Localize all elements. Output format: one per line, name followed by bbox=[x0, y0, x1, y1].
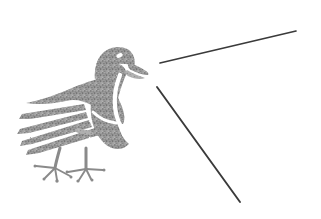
claw-dot bbox=[76, 179, 79, 182]
claw-dot bbox=[34, 165, 37, 168]
claw-dot bbox=[103, 169, 106, 172]
background bbox=[0, 0, 321, 219]
claw-dot bbox=[66, 171, 69, 174]
artwork-canvas: Stippled Bird Illustration bbox=[0, 0, 321, 219]
claw-dot bbox=[43, 178, 46, 181]
bird-illustration bbox=[0, 0, 321, 219]
toe-front-4 bbox=[86, 169, 103, 170]
claw-dot bbox=[70, 176, 73, 179]
claw-dot bbox=[55, 179, 58, 182]
claw-dot bbox=[91, 179, 94, 182]
